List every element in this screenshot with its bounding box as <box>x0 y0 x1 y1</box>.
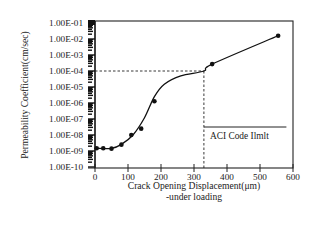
data-point-marker <box>129 133 134 138</box>
x-tick-label: 600 <box>286 172 300 182</box>
y-tick-label: 1.00E-04 <box>49 66 83 76</box>
y-tick-label: 1.00E-05 <box>49 82 83 92</box>
data-point-marker <box>109 146 114 151</box>
y-tick-label: 1.00E-08 <box>49 130 83 140</box>
data-point-marker <box>139 126 144 131</box>
y-axis-title: Permeability Coefficient(cm/sec) <box>19 31 31 158</box>
y-tick-label: 1.00E-06 <box>49 98 83 108</box>
aci-code-limit-label: ACI Code Ilmlt <box>210 131 269 141</box>
data-point-marker <box>94 146 99 151</box>
y-tick-label: 1.00E-03 <box>49 50 83 60</box>
x-axis-title-line2: -under loading <box>166 191 222 202</box>
permeability-chart: 1.00E-011.00E-021.00E-031.00E-041.00E-05… <box>0 0 320 227</box>
y-axis-minor-ticks <box>88 20 95 168</box>
plot-frame <box>95 21 293 168</box>
data-point-marker <box>152 99 157 104</box>
data-point-marker <box>276 33 281 38</box>
x-tick-label: 0 <box>93 172 98 182</box>
y-tick-label: 1.00E-01 <box>49 18 83 28</box>
aci-limit-annotation <box>95 71 286 170</box>
y-tick-label: 1.00E-07 <box>49 114 83 124</box>
data-point-marker <box>101 146 106 151</box>
data-point-marker <box>119 142 124 147</box>
y-tick-label: 1.00E-02 <box>49 34 83 44</box>
y-axis-tick-labels: 1.00E-011.00E-021.00E-031.00E-041.00E-05… <box>49 18 83 172</box>
y-tick-label: 1.00E-10 <box>49 162 83 172</box>
y-tick-label: 1.00E-09 <box>49 146 83 156</box>
data-point-marker <box>210 62 215 67</box>
